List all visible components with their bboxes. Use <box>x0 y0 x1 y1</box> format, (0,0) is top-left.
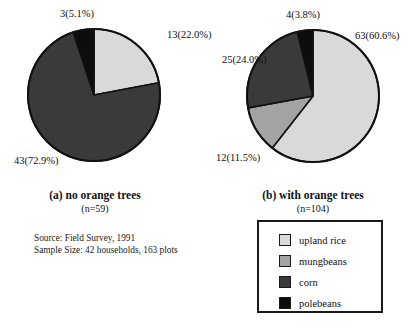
pie-a-slice-label-polebeans: 3(5.1%) <box>60 8 94 19</box>
pie-a-caption: (a) no orange trees <box>4 189 186 201</box>
pie-b-slice-label-upland-rice: 63(60.6%) <box>355 30 400 41</box>
pie-slice-polebeans <box>297 30 313 96</box>
legend-label-upland-rice: upland rice <box>299 235 346 246</box>
legend-label-mungbeans: mungbeans <box>299 256 347 267</box>
legend-swatch-corn <box>279 276 291 288</box>
legend-items: upland rice mungbeans corn polebeans <box>279 230 385 314</box>
pie-outline <box>28 29 160 161</box>
legend-item-polebeans: polebeans <box>279 293 385 313</box>
legend-swatch-upland-rice <box>279 234 291 246</box>
legend-swatch-mungbeans <box>279 255 291 267</box>
legend-item-corn: corn <box>279 272 385 292</box>
pie-b-slice-label-polebeans: 4(3.8%) <box>286 9 320 20</box>
pie-b-slice-label-mungbeans: 12(11.5%) <box>216 152 260 163</box>
source-note: Source: Field Survey, 1991 Sample Size: … <box>34 232 178 256</box>
pie-slice-upland-rice <box>94 29 159 95</box>
pie-slice-corn <box>28 32 160 161</box>
pie-b-caption: (b) with orange trees <box>222 189 404 201</box>
pie-outline <box>247 30 379 162</box>
pie-slice-upland-rice <box>272 30 379 162</box>
pie-a-slice-label-corn: 43(72.9%) <box>14 155 59 166</box>
legend-item-upland-rice: upland rice <box>279 230 385 250</box>
legend-label-polebeans: polebeans <box>299 298 341 309</box>
pie-slice-polebeans <box>73 29 94 95</box>
pie-chart-figure: 13(22.0%) 43(72.9%) 3(5.1%) 63(60.6%) 12… <box>0 0 414 331</box>
legend-swatch-polebeans <box>279 297 291 309</box>
source-line-survey: Source: Field Survey, 1991 <box>34 232 178 244</box>
pie-slice-mungbeans <box>248 96 313 148</box>
pie-a-sample-size: (n=59) <box>4 203 186 214</box>
pie-a-slice-label-upland-rice: 13(22.0%) <box>167 29 212 40</box>
pie-b-slice-label-corn: 25(24.0%) <box>222 54 267 65</box>
legend: upland rice mungbeans corn polebeans <box>257 220 383 313</box>
pie-slice-corn <box>247 32 313 108</box>
legend-label-corn: corn <box>299 277 318 288</box>
source-line-sample-size: Sample Size: 42 households, 163 plots <box>34 244 178 256</box>
pie-b-sample-size: (n=104) <box>222 203 404 214</box>
legend-item-mungbeans: mungbeans <box>279 251 385 271</box>
